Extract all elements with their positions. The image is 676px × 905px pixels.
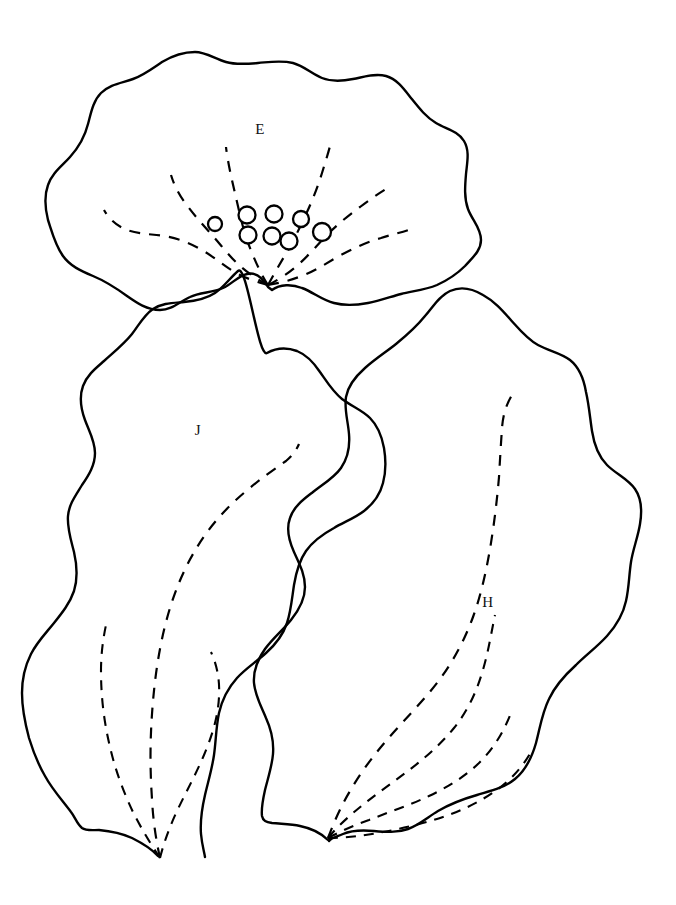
specimen-H-outline xyxy=(254,288,641,841)
specimen-J-vein-2 xyxy=(101,625,160,858)
gland-dot xyxy=(313,223,331,241)
specimen-label-E: E xyxy=(255,121,265,137)
gland-dot xyxy=(239,207,256,224)
leaf-outline-drawing: E J H xyxy=(0,0,676,905)
specimen-E-outline xyxy=(45,52,481,310)
specimen-label-J: J xyxy=(195,422,201,438)
gland-dot xyxy=(208,217,222,231)
gland-dot-cluster xyxy=(208,206,331,250)
specimen-J-vein-1 xyxy=(151,444,300,858)
gland-dot xyxy=(264,228,281,245)
specimen-J-vein-3 xyxy=(160,652,219,858)
specimen-H-vein-2 xyxy=(328,615,495,838)
specimen-J-outline xyxy=(22,271,385,857)
gland-dot xyxy=(293,211,309,227)
specimen-label-H: H xyxy=(482,594,493,610)
gland-dot xyxy=(281,233,298,250)
specimen-H-vein-1 xyxy=(328,395,512,838)
figure-plate: E J H xyxy=(0,0,676,905)
specimen-J-group: J xyxy=(22,271,385,858)
specimen-H-vein-3 xyxy=(328,713,511,838)
specimen-H-vein-4 xyxy=(328,748,533,838)
specimen-E-group: E xyxy=(45,52,481,310)
gland-dot xyxy=(266,206,283,223)
specimen-H-group: H xyxy=(254,288,641,841)
gland-dot xyxy=(240,227,257,244)
